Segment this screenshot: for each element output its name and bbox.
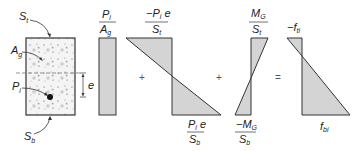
svg-text:Pi: Pi [102, 8, 111, 21]
sb-leader-arrow [34, 117, 50, 134]
st-leader-arrow [30, 20, 50, 37]
tendon-dot [47, 94, 53, 100]
label-e: e [88, 79, 94, 91]
label-ag: Ag [10, 44, 22, 59]
plus-operator-2: + [216, 72, 222, 83]
svg-text:St: St [252, 23, 262, 36]
svg-text:Sb: Sb [239, 133, 250, 146]
plus-operator-1: + [139, 72, 145, 83]
equals-operator: = [275, 72, 281, 83]
beam-section [16, 20, 86, 134]
svg-text:St: St [152, 23, 162, 36]
svg-text:Ag: Ag [99, 23, 111, 37]
resultant-top-label: −fti [287, 21, 300, 34]
stress-diagram: St Ag Pi e Sb Pi Ag + −Pi e St Pi e Sb +… [0, 0, 361, 151]
eccentricity-dimension [80, 73, 86, 97]
resultant-stress-block [287, 38, 350, 115]
svg-text:MG: MG [251, 7, 266, 20]
label-pi: Pi [12, 80, 21, 94]
prestress-top-label: −Pi e St [145, 7, 171, 36]
svg-text:−Pi e: −Pi e [146, 7, 171, 20]
label-sb: Sb [24, 130, 35, 144]
axial-stress-block [99, 38, 116, 115]
svg-text:Pi e: Pi e [188, 118, 206, 131]
label-st: St [19, 10, 29, 24]
gravity-moment-block [235, 38, 268, 115]
svg-text:−MG: −MG [236, 118, 258, 131]
gravity-top-label: MG St [249, 7, 268, 36]
gravity-bottom-label: −MG Sb [235, 118, 258, 146]
concrete-section [26, 38, 75, 115]
prestress-bottom-label: Pi e Sb [187, 118, 206, 146]
svg-text:Sb: Sb [189, 133, 200, 146]
axial-stress-label: Pi Ag [99, 8, 116, 37]
resultant-bottom-label: fbi [320, 120, 329, 133]
